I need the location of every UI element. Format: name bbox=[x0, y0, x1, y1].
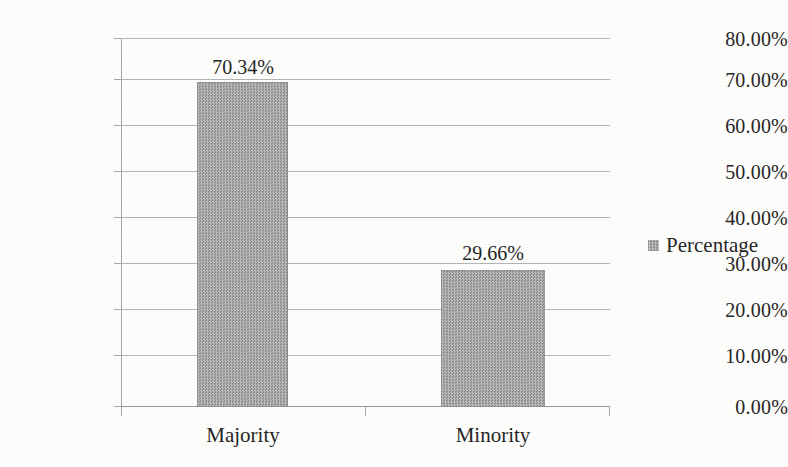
chart-figure: 80.00% 70.00% 60.00% 50.00% 40.00% 30.00… bbox=[0, 0, 788, 467]
y-tick-10 bbox=[114, 355, 121, 356]
y-tick-40 bbox=[114, 217, 121, 218]
bar-value-majority: 70.34% bbox=[182, 57, 304, 77]
legend-label-percentage: Percentage bbox=[666, 234, 758, 256]
y-axis-label-30: 30.00% bbox=[680, 254, 788, 274]
y-axis-label-40: 40.00% bbox=[680, 208, 788, 228]
x-tick-middle bbox=[365, 407, 366, 416]
chart-legend: Percentage bbox=[648, 234, 758, 256]
gridline-40 bbox=[121, 217, 610, 218]
y-tick-60 bbox=[114, 125, 121, 126]
y-axis-label-0: 0.00% bbox=[680, 397, 788, 417]
y-tick-50 bbox=[114, 171, 121, 172]
legend-swatch-icon bbox=[648, 240, 659, 251]
gridline-70 bbox=[121, 79, 610, 80]
category-label-majority: Majority bbox=[182, 424, 304, 446]
x-tick-left bbox=[121, 407, 122, 416]
y-axis-label-70: 70.00% bbox=[680, 70, 788, 90]
category-label-minority: Minority bbox=[432, 424, 554, 446]
gridline-60 bbox=[121, 125, 610, 126]
plot-area bbox=[121, 38, 610, 407]
y-tick-30 bbox=[114, 263, 121, 264]
x-tick-right bbox=[609, 407, 610, 416]
y-tick-70 bbox=[114, 79, 121, 80]
y-tick-20 bbox=[114, 309, 121, 310]
y-axis-label-10: 10.00% bbox=[680, 346, 788, 366]
y-axis-label-60: 60.00% bbox=[680, 116, 788, 136]
gridline-50 bbox=[121, 171, 610, 172]
y-tick-0 bbox=[114, 406, 121, 407]
y-axis-label-20: 20.00% bbox=[680, 300, 788, 320]
gridline-30 bbox=[121, 263, 610, 264]
y-axis-label-50: 50.00% bbox=[680, 162, 788, 182]
gridline-80 bbox=[121, 38, 610, 39]
bar-value-minority: 29.66% bbox=[432, 243, 554, 263]
bar-minority[interactable] bbox=[441, 270, 545, 407]
y-axis-label-80: 80.00% bbox=[680, 29, 788, 49]
bar-majority[interactable] bbox=[197, 82, 288, 407]
y-tick-80 bbox=[114, 38, 121, 39]
